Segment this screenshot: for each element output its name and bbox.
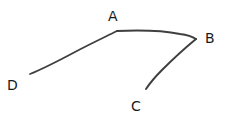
edge-b-c <box>146 39 196 89</box>
node-label-a: A <box>108 8 118 24</box>
node-label-c: C <box>131 98 141 114</box>
diagram-canvas: A B C D <box>0 0 231 121</box>
node-label-b: B <box>205 30 215 46</box>
edge-a-b <box>117 31 196 39</box>
edge-d-a <box>30 31 117 74</box>
node-label-d: D <box>7 77 18 93</box>
